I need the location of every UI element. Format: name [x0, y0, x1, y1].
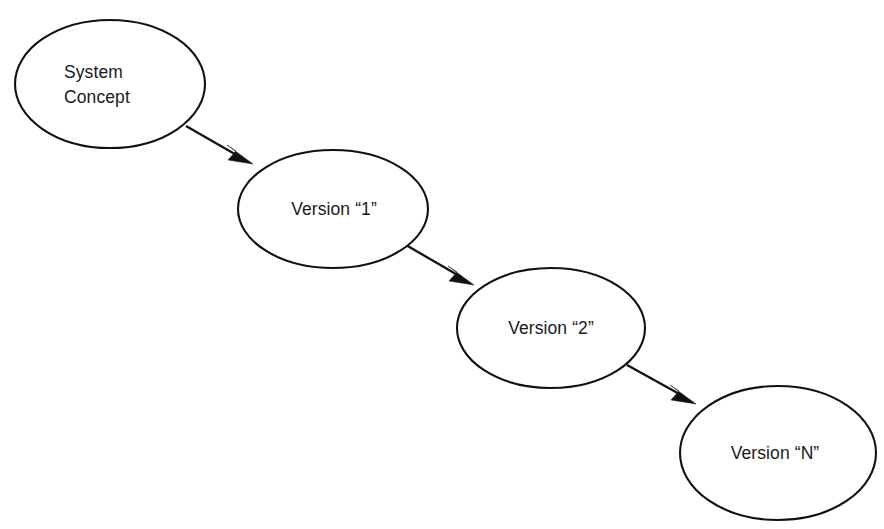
edge-v1-to-v2-line: [406, 245, 461, 277]
version-1-label: Version “1”: [291, 199, 377, 219]
version-2-label: Version “2”: [508, 318, 594, 338]
edge-v2-to-vn-arrowhead: [670, 385, 696, 404]
system-concept-ellipse[interactable]: [15, 20, 205, 148]
edge-v2-to-vn-line: [627, 365, 683, 396]
edge-concept-to-v1-line: [186, 126, 240, 157]
version-n-label: Version “N”: [731, 443, 820, 463]
system-concept-label-line1: System: [64, 62, 123, 82]
node-system-concept[interactable]: System Concept: [15, 20, 205, 148]
edge-concept-to-v1-arrowhead: [227, 145, 253, 164]
node-version-2[interactable]: Version “2”: [457, 268, 645, 388]
diagram-canvas: System Concept Version “1” Version “2” V…: [0, 0, 884, 529]
edge-v2-to-vn: [627, 365, 696, 404]
edge-v1-to-v2: [406, 245, 474, 285]
node-version-1[interactable]: Version “1”: [238, 150, 428, 268]
system-concept-label-line2: Concept: [64, 87, 130, 107]
node-version-n[interactable]: Version “N”: [680, 386, 876, 520]
diagram-svg: System Concept Version “1” Version “2” V…: [0, 0, 884, 529]
edge-concept-to-v1: [186, 126, 253, 164]
edge-v1-to-v2-arrowhead: [448, 266, 474, 285]
